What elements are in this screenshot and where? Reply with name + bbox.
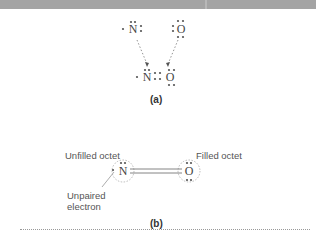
unpaired-label-line2: electron: [67, 201, 101, 212]
panel-b-label: (b): [150, 218, 163, 229]
n-symbol-product: N: [143, 70, 152, 84]
unpaired-pointer: [102, 172, 114, 187]
o-symbol-product: O: [166, 70, 175, 84]
dotted-separator: [20, 229, 310, 230]
unfilled-octet-label: Unfilled octet: [65, 150, 120, 161]
lewis-diagram: N O N O N O: [0, 0, 316, 251]
unpaired-label-line1: Unpaired: [67, 190, 106, 201]
filled-octet-label: Filled octet: [196, 150, 242, 161]
n-symbol-b: N: [119, 164, 128, 178]
panel-a-label: (a): [150, 94, 162, 105]
arrow-o-icon: [168, 40, 178, 64]
o-symbol-b: O: [185, 164, 194, 178]
o-symbol-a: O: [177, 22, 186, 36]
arrow-n-icon: [137, 40, 147, 64]
n-symbol-a: N: [129, 22, 138, 36]
